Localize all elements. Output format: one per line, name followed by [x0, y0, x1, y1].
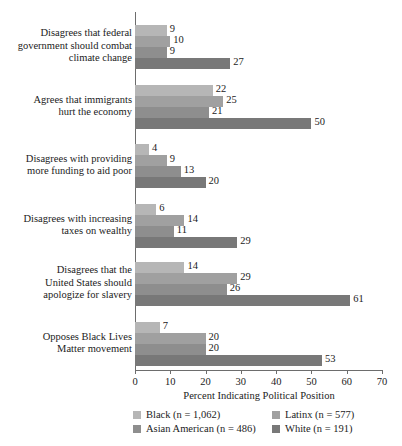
x-axis-tick: [276, 370, 277, 374]
bar-group: 910927: [135, 25, 382, 69]
bar-group: 22252150: [135, 85, 382, 129]
category-label: Disagrees with providingmore funding to …: [0, 153, 132, 178]
bar-group: 7202053: [135, 322, 382, 366]
x-axis-tick: [135, 370, 136, 374]
x-axis-title: Percent Indicating Political Position: [135, 390, 383, 401]
bar: [135, 322, 160, 333]
x-axis-tick-label: 30: [226, 375, 256, 388]
bar-row: 27: [135, 58, 382, 69]
bar: [135, 273, 237, 284]
bar: [135, 155, 167, 166]
category-label: Disagrees that federalgovernment should …: [0, 27, 132, 64]
legend-item[interactable]: White (n = 191): [272, 422, 402, 436]
bar-value-label: 14: [184, 213, 198, 224]
legend-item[interactable]: Latinx (n = 577): [272, 408, 402, 422]
x-axis-tick: [347, 370, 348, 374]
legend-label: Black (n = 1,062): [146, 408, 220, 422]
bar: [135, 284, 227, 295]
x-axis-tick-label: 60: [332, 375, 362, 388]
category-label-line: Disagrees that federal: [0, 27, 132, 39]
bar-value-label: 6: [156, 202, 164, 213]
category-label-line: more funding to aid poor: [0, 165, 132, 177]
bar-value-label: 4: [149, 142, 157, 153]
bar-value-label: 11: [174, 224, 187, 235]
category-label-line: Disagrees with providing: [0, 153, 132, 165]
bar-value-label: 10: [170, 34, 184, 45]
bar-value-label: 20: [206, 342, 220, 353]
bar-row: 53: [135, 355, 382, 366]
category-label-line: Disagrees with increasing: [0, 213, 132, 225]
bar-value-label: 14: [184, 260, 198, 271]
bar: [135, 177, 206, 188]
category-label-line: Disagrees that the: [0, 264, 132, 276]
bar: [135, 204, 156, 215]
bar-row: 21: [135, 107, 382, 118]
category-label-line: apologize for slavery: [0, 289, 132, 301]
bar: [135, 166, 181, 177]
bar: [135, 344, 206, 355]
bar: [135, 25, 167, 36]
x-axis-tick: [206, 370, 207, 374]
bar-value-label: 25: [223, 94, 237, 105]
bar-value-label: 50: [311, 116, 325, 127]
bar: [135, 333, 206, 344]
bar: [135, 237, 237, 248]
category-label: Disagrees that theUnited States shouldap…: [0, 264, 132, 301]
x-axis-tick-label: 10: [155, 375, 185, 388]
bar-row: 13: [135, 166, 382, 177]
bar-value-label: 27: [230, 56, 244, 67]
bar: [135, 355, 322, 366]
bar-row: 20: [135, 177, 382, 188]
x-axis-tick-label: 20: [191, 375, 221, 388]
legend-label: White (n = 191): [285, 422, 352, 436]
bar-value-label: 20: [206, 175, 220, 186]
category-label-line: Opposes Black Lives: [0, 331, 132, 343]
category-label-line: United States should: [0, 277, 132, 289]
bar-row: 29: [135, 237, 382, 248]
bar-value-label: 29: [237, 235, 251, 246]
legend-swatch-icon: [133, 411, 141, 419]
bar: [135, 118, 311, 129]
category-label-line: Matter movement: [0, 343, 132, 355]
bar-row: 20: [135, 333, 382, 344]
x-axis-tick-label: 50: [296, 375, 326, 388]
bar: [135, 85, 213, 96]
x-axis-tick-label: 70: [367, 375, 397, 388]
bar-value-label: 9: [167, 23, 175, 34]
bar: [135, 295, 350, 306]
bar-group: 14292661: [135, 262, 382, 306]
legend-row: Black (n = 1,062)Latinx (n = 577): [133, 408, 402, 422]
bar-row: 9: [135, 47, 382, 58]
category-label-line: hurt the economy: [0, 106, 132, 118]
bar-value-label: 53: [322, 353, 336, 364]
x-axis-tick: [382, 370, 383, 374]
bar-row: 20: [135, 344, 382, 355]
bar-row: 9: [135, 155, 382, 166]
bar-row: 61: [135, 295, 382, 306]
legend-item[interactable]: Asian American (n = 486): [133, 422, 272, 436]
legend-item[interactable]: Black (n = 1,062): [133, 408, 272, 422]
bar: [135, 262, 184, 273]
category-label-line: government should combat: [0, 40, 132, 52]
legend-swatch-icon: [272, 411, 280, 419]
plot-area: 9109272225215049132061411291429266172020…: [135, 12, 382, 370]
category-label: Disagrees with increasingtaxes on wealth…: [0, 213, 132, 238]
bar-row: 29: [135, 273, 382, 284]
category-label-line: climate change: [0, 52, 132, 64]
bar-row: 7: [135, 322, 382, 333]
bar: [135, 144, 149, 155]
bar-row: 14: [135, 262, 382, 273]
bar-group: 491320: [135, 144, 382, 188]
bar-value-label: 26: [227, 282, 241, 293]
legend-label: Latinx (n = 577): [285, 408, 354, 422]
bar-value-label: 21: [209, 105, 223, 116]
bar-row: 26: [135, 284, 382, 295]
legend-swatch-icon: [133, 425, 141, 433]
x-axis-tick: [311, 370, 312, 374]
bar: [135, 226, 174, 237]
category-label-line: Agrees that immigrants: [0, 94, 132, 106]
bar: [135, 36, 170, 47]
legend-row: Asian American (n = 486)White (n = 191): [133, 422, 402, 436]
category-label-line: taxes on wealthy: [0, 225, 132, 237]
bar-value-label: 22: [213, 83, 227, 94]
